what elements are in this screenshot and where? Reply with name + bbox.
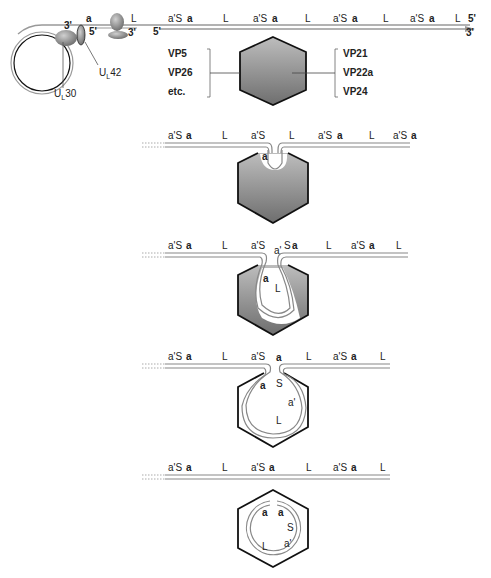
segment-label: a' — [274, 245, 282, 256]
segment-label: L — [262, 541, 268, 552]
segment-label: a — [260, 380, 266, 391]
segment-label: L — [275, 283, 281, 294]
end-label: 3' — [64, 20, 72, 31]
segment-label: L — [455, 13, 461, 24]
segment-label: a — [262, 507, 268, 518]
end-label: 5' — [153, 26, 161, 37]
protein-label: VP22a — [343, 67, 373, 78]
segment-label: a — [186, 351, 192, 362]
segment-label: L — [276, 415, 282, 426]
segment-label: L — [369, 130, 375, 141]
segment-label: L — [380, 462, 386, 473]
segment-label: a'S — [251, 462, 265, 473]
segment-label: L — [223, 13, 229, 24]
protein-label: VP26 — [168, 67, 193, 78]
end-label: 3' — [128, 27, 136, 38]
ul30-protein — [55, 30, 77, 46]
segment-label: L — [380, 351, 386, 362]
segment-label: S — [276, 378, 283, 389]
segment-label: L — [222, 462, 228, 473]
segment-label: a — [263, 273, 269, 284]
segment-label: a'S — [351, 240, 365, 251]
segment-label: a — [292, 240, 298, 251]
segment-label: a — [351, 351, 357, 362]
ul42-pointer — [85, 42, 98, 65]
segment-label: L — [396, 240, 402, 251]
segment-label: L — [306, 351, 312, 362]
segment-label: a — [269, 462, 275, 473]
segment-label: a'S — [251, 351, 265, 362]
segment-label: a' — [288, 397, 296, 408]
panel-cleaved: a a S a' L a'S a L a'S a L a'S a L — [142, 462, 390, 567]
primase-protein-top — [110, 13, 124, 31]
segment-label: a — [86, 13, 92, 24]
procapsid — [240, 37, 306, 105]
ul42-label: UL42 — [99, 67, 122, 80]
segment-label: a'S — [410, 13, 424, 24]
segment-label: a'S — [168, 130, 182, 141]
segment-label: L — [222, 130, 228, 141]
packaging-diagram: 3' 5' 3' 5' 5' 3' UL42 UL30 a L a'S a L … — [0, 0, 491, 578]
protein-label: VP5 — [168, 48, 187, 59]
segment-label: a — [186, 240, 192, 251]
segment-label: L — [222, 351, 228, 362]
segment-label: L — [305, 13, 311, 24]
segment-label: L — [383, 13, 389, 24]
end-label: 5' — [89, 26, 97, 37]
panel-entry: a L a'S a L a'S a' S a L a'S a L — [142, 240, 408, 335]
segment-label: a — [187, 13, 193, 24]
segment-label: a — [429, 13, 435, 24]
protein-label: VP24 — [343, 86, 368, 97]
primase-protein-bottom — [108, 31, 128, 39]
ul42-protein — [77, 25, 85, 45]
mature-capsid — [238, 490, 308, 567]
segment-label: a'S — [253, 13, 267, 24]
segment-label: a'S — [333, 462, 347, 473]
segment-label: a'S — [168, 13, 182, 24]
protein-label: VP21 — [343, 48, 368, 59]
segment-label: a — [337, 130, 343, 141]
segment-label: a'S — [168, 351, 182, 362]
panel-filling: a S a' L a'S a L a'S a L a'S a L — [142, 351, 390, 447]
end-label: 5' — [468, 13, 476, 24]
end-label: 3' — [466, 27, 474, 38]
protein-label: etc. — [168, 86, 185, 97]
segment-label: a'S — [251, 130, 265, 141]
segment-label: a'S — [168, 462, 182, 473]
ul30-label: UL30 — [54, 88, 77, 101]
segment-label: L — [222, 240, 228, 251]
segment-label: a — [369, 240, 375, 251]
segment-label: a — [276, 352, 282, 363]
segment-label: a'S — [168, 240, 182, 251]
segment-label: a'S — [333, 351, 347, 362]
segment-label: L — [326, 240, 332, 251]
segment-label: a'S — [251, 240, 265, 251]
right-bracket — [335, 49, 338, 97]
left-bracket — [207, 49, 210, 97]
segment-label: a — [352, 13, 358, 24]
segment-label: a' — [284, 538, 292, 549]
segment-label: a — [272, 13, 278, 24]
segment-label: L — [306, 462, 312, 473]
segment-label: S — [287, 522, 294, 533]
segment-label: L — [131, 13, 137, 24]
segment-label: a — [262, 151, 268, 162]
segment-label: a'S — [318, 130, 332, 141]
segment-label: L — [289, 130, 295, 141]
panel-docking: a a'S a L a'S L a'S a L a'S a — [142, 130, 417, 223]
segment-label: a — [351, 462, 357, 473]
segment-label: a — [186, 462, 192, 473]
segment-label: a — [411, 130, 417, 141]
segment-label: S — [284, 240, 291, 251]
segment-label: a'S — [393, 130, 407, 141]
segment-label: a — [186, 130, 192, 141]
segment-label: a — [278, 507, 284, 518]
panel-replication: 3' 5' 3' 5' 5' 3' UL42 UL30 a L a'S a L … — [11, 13, 476, 105]
segment-label: a'S — [333, 13, 347, 24]
